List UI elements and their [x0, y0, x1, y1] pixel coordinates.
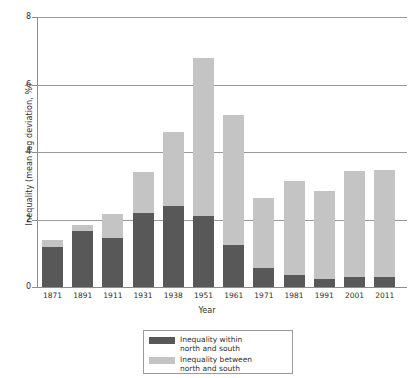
legend-label-within-line2: north and south — [180, 344, 240, 353]
bar-2001 — [344, 171, 365, 287]
y-tick-label-4: 4 — [17, 148, 31, 156]
bar-segment-within-1961 — [223, 245, 244, 287]
bar-segment-within-1931 — [133, 213, 154, 287]
x-axis-title: Year — [0, 306, 414, 315]
bar-segment-between-1981 — [284, 181, 305, 276]
bar-1931 — [133, 172, 154, 287]
y-tick-0 — [32, 287, 37, 288]
bar-1951 — [193, 58, 214, 288]
bar-segment-between-1871 — [42, 240, 63, 247]
legend-label-between-line1: Inequality between — [180, 355, 252, 364]
bar-2011 — [374, 170, 395, 287]
legend-label-within-line1: Inequality within — [180, 335, 242, 344]
stacked-bar-chart: Inequality (mean log deviation, %) 02468… — [0, 0, 414, 378]
y-tick-label-8: 8 — [17, 13, 31, 21]
bar-1911 — [102, 214, 123, 287]
y-tick-label-0: 0 — [17, 283, 31, 291]
chart-legend: Inequality within north and south Inequa… — [143, 330, 293, 374]
bar-segment-within-2011 — [374, 277, 395, 287]
bar-1891 — [72, 225, 93, 287]
bar-segment-within-1981 — [284, 275, 305, 287]
x-axis-spine — [37, 287, 407, 288]
bar-segment-within-1911 — [102, 238, 123, 287]
legend-entry-within: Inequality within north and south — [149, 335, 287, 353]
bar-segment-between-2001 — [344, 171, 365, 277]
legend-entry-between: Inequality between north and south — [149, 355, 287, 373]
bar-segment-between-1971 — [253, 198, 274, 269]
y-tick-label-2: 2 — [17, 216, 31, 224]
bar-1961 — [223, 115, 244, 287]
between-swatch-icon — [149, 357, 175, 364]
bar-segment-within-1971 — [253, 268, 274, 287]
bar-segment-within-1951 — [193, 216, 214, 287]
bar-segment-between-1961 — [223, 115, 244, 245]
bar-segment-within-2001 — [344, 277, 365, 287]
y-tick-label-6: 6 — [17, 81, 31, 89]
bar-segment-within-1991 — [314, 279, 335, 287]
bar-1971 — [253, 198, 274, 287]
bar-segment-within-1891 — [72, 231, 93, 287]
bar-segment-between-1951 — [193, 58, 214, 217]
legend-label-within: Inequality within north and south — [180, 335, 242, 353]
bar-1871 — [42, 240, 63, 287]
bar-1991 — [314, 191, 335, 287]
bar-segment-between-1931 — [133, 172, 154, 213]
bar-segment-within-1871 — [42, 247, 63, 288]
bar-1938 — [163, 132, 184, 287]
within-swatch-icon — [149, 337, 175, 344]
bar-segment-between-1938 — [163, 132, 184, 206]
legend-label-between-line2: north and south — [180, 364, 240, 373]
bar-series-layer — [37, 17, 407, 287]
bar-1981 — [284, 181, 305, 287]
bar-segment-between-1991 — [314, 191, 335, 279]
legend-label-between: Inequality between north and south — [180, 355, 252, 373]
plot-area: 02468 1871189119111931193819511961197119… — [37, 17, 407, 287]
bar-segment-within-1938 — [163, 206, 184, 287]
bar-segment-between-2011 — [374, 170, 395, 277]
x-tick-label-2011: 2011 — [365, 291, 405, 300]
bar-segment-between-1911 — [102, 214, 123, 238]
bar-segment-between-1891 — [72, 225, 93, 232]
